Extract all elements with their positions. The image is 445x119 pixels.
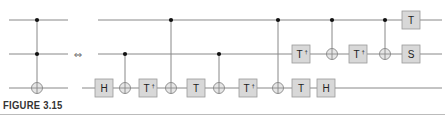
control-dot-icon <box>35 52 39 56</box>
gate-label: S <box>408 49 415 60</box>
gate-h: H <box>317 79 335 97</box>
gate-label: T <box>243 83 249 94</box>
target-xor-icon <box>380 49 391 60</box>
toffoli-circuit <box>9 18 68 94</box>
dagger-symbol: † <box>252 83 255 89</box>
decomposed-circuit: HT†TT†T†THT†TS <box>82 11 442 97</box>
dagger-symbol: † <box>152 83 155 89</box>
control-dot-icon <box>383 18 387 22</box>
gate-t: T <box>187 79 205 97</box>
gate-label: T <box>193 83 199 94</box>
control-dot-icon <box>217 52 221 56</box>
gate-label: T <box>353 49 359 60</box>
gate-label: T <box>296 49 302 60</box>
gate-label: T <box>143 83 149 94</box>
gate-t-dagger: T† <box>292 45 310 63</box>
control-dot-icon <box>123 52 127 56</box>
quantum-circuit-diagram: ⇔ HT†TT†T†THT†TS <box>0 0 445 119</box>
target-xor-icon <box>214 83 225 94</box>
gate-t-dagger: T† <box>239 79 257 97</box>
target-xor-icon <box>273 83 284 94</box>
dagger-symbol: † <box>362 49 365 55</box>
gate-t: T <box>292 79 310 97</box>
target-xor-icon <box>120 83 131 94</box>
control-dot-icon <box>330 18 334 22</box>
gate-label: H <box>322 83 329 94</box>
target-xor-icon <box>166 83 177 94</box>
gate-label: T <box>298 83 304 94</box>
figure-caption: FIGURE 3.15 <box>3 99 63 111</box>
gate-s: S <box>402 45 420 63</box>
gate-label: T <box>408 15 414 26</box>
gate-t-dagger: T† <box>139 79 157 97</box>
gate-label: H <box>100 83 107 94</box>
gate-t-dagger: T† <box>349 45 367 63</box>
caption-rule <box>0 114 445 115</box>
control-dot-icon <box>35 18 39 22</box>
dagger-symbol: † <box>305 49 308 55</box>
gate-t: T <box>402 11 420 29</box>
target-xor-icon <box>32 83 43 94</box>
gate-h: H <box>95 79 113 97</box>
target-xor-icon <box>327 49 338 60</box>
control-dot-icon <box>276 18 280 22</box>
equivalence-symbol: ⇔ <box>74 49 82 60</box>
control-dot-icon <box>169 18 173 22</box>
